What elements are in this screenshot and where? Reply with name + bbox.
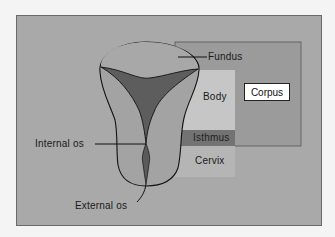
label-corpus: Corpus <box>244 83 290 101</box>
label-cervix: Cervix <box>195 155 225 166</box>
label-internal-os: Internal os <box>35 138 84 149</box>
external-os-leader <box>137 184 146 202</box>
label-body: Body <box>203 91 227 102</box>
label-fundus: Fundus <box>208 51 243 62</box>
label-external-os: External os <box>75 200 127 211</box>
uterus-diagram <box>0 0 335 237</box>
label-isthmus: Isthmus <box>193 132 229 143</box>
